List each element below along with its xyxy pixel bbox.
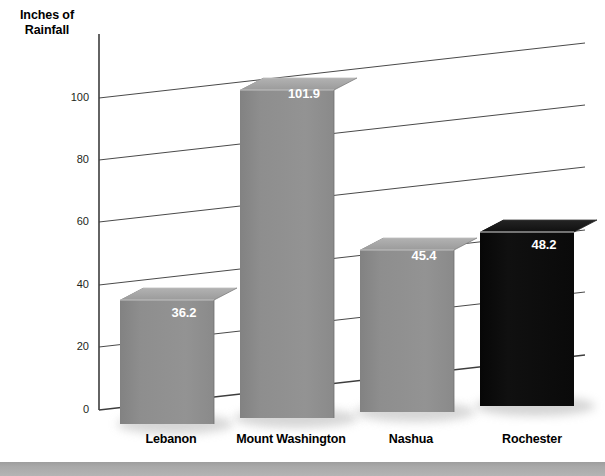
y-tick-label-40: 40: [55, 279, 89, 290]
gridline-60: [99, 167, 585, 222]
bar-chart: Inches of Rainfall 0 20 40 60 80 100 36.…: [0, 0, 605, 476]
category-label-lebanon: Lebanon: [124, 432, 218, 446]
bar-mount-washington-front: [240, 90, 334, 418]
bar-nashua[interactable]: [355, 238, 477, 422]
value-label-lebanon: 36.2: [137, 306, 231, 320]
y-tick-label-80: 80: [55, 154, 89, 165]
value-label-rochester: 48.2: [497, 238, 591, 252]
bar-nashua-front: [360, 250, 454, 412]
y-axis-title-line-2: Rainfall: [4, 23, 90, 38]
category-label-nashua: Nashua: [364, 432, 458, 446]
category-label-rochester: Rochester: [482, 432, 582, 446]
y-tick-label-100: 100: [55, 92, 89, 103]
value-label-mount-washington: 101.9: [257, 87, 351, 101]
y-tick-label-20: 20: [55, 341, 89, 352]
y-tick-label-60: 60: [55, 216, 89, 227]
footer-strip: [0, 462, 605, 476]
y-tick-label-0: 0: [55, 404, 89, 415]
gridline-80: [99, 105, 585, 160]
bar-rochester-front: [480, 232, 574, 406]
category-label-mount-washington: Mount Washington: [226, 432, 356, 446]
y-axis-title-line-1: Inches of: [4, 8, 90, 23]
bar-mount-washington[interactable]: [234, 78, 358, 428]
y-axis-title: Inches of Rainfall: [4, 8, 90, 38]
value-label-nashua: 45.4: [377, 249, 471, 263]
bar-lebanon-top: [120, 288, 237, 300]
